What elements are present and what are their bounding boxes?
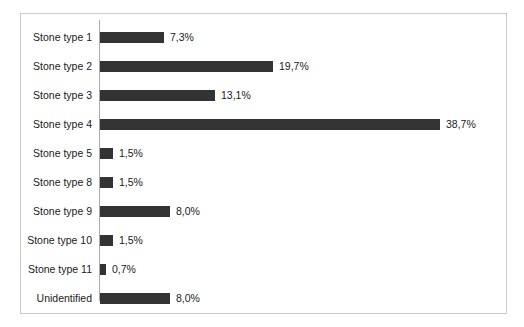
category-label: Stone type 2: [20, 60, 92, 73]
category-label: Stone type 4: [20, 118, 92, 131]
bar-row: Stone type 101,5%: [0, 226, 524, 255]
bar-value-label: 1,5%: [119, 147, 143, 160]
category-label: Stone type 3: [20, 89, 92, 102]
category-label: Stone type 5: [20, 147, 92, 160]
bar-value-label: 13,1%: [221, 89, 251, 102]
bar: [100, 119, 440, 130]
bar: [100, 177, 113, 188]
bar-track: 8,0%: [100, 206, 200, 217]
bar-row: Stone type 17,3%: [0, 23, 524, 52]
category-label: Stone type 10: [20, 234, 92, 247]
bar-track: 8,0%: [100, 293, 200, 304]
bar: [100, 32, 164, 43]
bar-row: Stone type 98,0%: [0, 197, 524, 226]
bar-track: 19,7%: [100, 61, 309, 72]
bar-value-label: 19,7%: [279, 60, 309, 73]
category-label: Unidentified: [20, 292, 92, 305]
bar-row: Stone type 313,1%: [0, 81, 524, 110]
bar-value-label: 8,0%: [176, 292, 200, 305]
bar-value-label: 7,3%: [170, 31, 194, 44]
bar: [100, 293, 170, 304]
category-label: Stone type 8: [20, 176, 92, 189]
bar-track: 0,7%: [100, 264, 136, 275]
bar-value-label: 1,5%: [119, 176, 143, 189]
bar-chart-figure: Stone type 17,3%Stone type 219,7%Stone t…: [0, 0, 524, 327]
bars-area: Stone type 17,3%Stone type 219,7%Stone t…: [0, 0, 524, 327]
bar-track: 13,1%: [100, 90, 251, 101]
bar-track: 1,5%: [100, 148, 143, 159]
bar: [100, 206, 170, 217]
bar-track: 38,7%: [100, 119, 476, 130]
bar-track: 7,3%: [100, 32, 194, 43]
category-label: Stone type 1: [20, 31, 92, 44]
bar-value-label: 1,5%: [119, 234, 143, 247]
bar-value-label: 8,0%: [176, 205, 200, 218]
category-label: Stone type 11: [20, 263, 92, 276]
bar-track: 1,5%: [100, 177, 143, 188]
bar: [100, 61, 273, 72]
bar-row: Stone type 81,5%: [0, 168, 524, 197]
bar-row: Stone type 51,5%: [0, 139, 524, 168]
bar-track: 1,5%: [100, 235, 143, 246]
bar-row: Stone type 219,7%: [0, 52, 524, 81]
bar-row: Stone type 110,7%: [0, 255, 524, 284]
bar-value-label: 0,7%: [112, 263, 136, 276]
bar-row: Unidentified8,0%: [0, 284, 524, 313]
bar: [100, 264, 106, 275]
bar: [100, 235, 113, 246]
bar: [100, 90, 215, 101]
category-label: Stone type 9: [20, 205, 92, 218]
bar-value-label: 38,7%: [446, 118, 476, 131]
bar: [100, 148, 113, 159]
bar-row: Stone type 438,7%: [0, 110, 524, 139]
